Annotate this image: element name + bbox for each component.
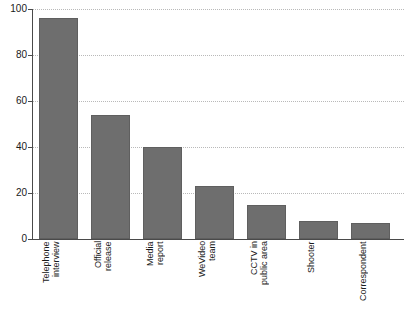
x-tick-label-media-report: Media report <box>145 241 165 307</box>
y-tick-label-20: 20 <box>1 188 27 198</box>
y-axis-labels: 100 80 60 40 20 0 <box>0 0 27 309</box>
y-tick-label-100: 100 <box>1 4 27 14</box>
bar-chart: 100 80 60 40 20 0 Telephone interview Of… <box>0 0 404 309</box>
y-tick-label-60: 60 <box>1 96 27 106</box>
bar-correspondent[interactable] <box>351 223 390 239</box>
y-tick-label-80: 80 <box>1 50 27 60</box>
x-tick-label-cctv-in-public-area: CCTV in public area <box>249 241 269 307</box>
bar-cctv-in-public-area[interactable] <box>247 205 286 240</box>
x-tick-label-shooter: Shooter <box>306 241 316 307</box>
bar-telephone-interview[interactable] <box>39 18 78 239</box>
x-tick-label-official-release: Official release <box>93 241 113 307</box>
bar-media-report[interactable] <box>143 147 182 239</box>
x-axis-labels: Telephone interview Official release Med… <box>33 241 404 309</box>
bar-shooter[interactable] <box>299 221 338 239</box>
y-tick-label-0: 0 <box>1 234 27 244</box>
bar-wevideo-team[interactable] <box>195 186 234 239</box>
x-tick-label-wevideo-team: WeVideo team <box>197 241 217 307</box>
y-tick-label-40: 40 <box>1 142 27 152</box>
bar-official-release[interactable] <box>91 115 130 239</box>
x-tick-label-correspondent: Correspondent <box>358 241 368 307</box>
x-tick-label-telephone-interview: Telephone interview <box>41 241 61 307</box>
bars-layer <box>33 9 404 239</box>
